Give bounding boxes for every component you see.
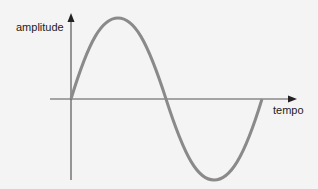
y-axis-arrow-icon — [68, 13, 75, 22]
y-axis-label: amplitude — [16, 21, 64, 33]
x-axis-arrow-icon — [288, 96, 297, 103]
x-axis-label: tempo — [273, 104, 304, 116]
